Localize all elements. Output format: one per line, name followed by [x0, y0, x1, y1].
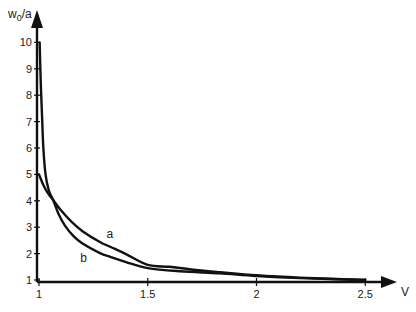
y-tick-label: 6	[26, 142, 32, 154]
curve-label-b: b	[80, 251, 87, 265]
y-tick-label: 9	[26, 63, 32, 75]
y-tick-label: 1	[26, 274, 32, 286]
y-tick-label: 5	[26, 168, 32, 180]
y-tick-label: 8	[26, 89, 32, 101]
y-tick-label: 10	[20, 36, 32, 48]
curve-a	[39, 174, 365, 280]
y-axis-arrow-icon	[31, 10, 43, 28]
axes: 1234567891011.522.5w0/aV	[7, 7, 409, 300]
curves	[39, 42, 365, 280]
x-tick-label: 2.5	[358, 288, 373, 300]
x-axis-label: V	[401, 285, 409, 299]
curve-label-a: a	[106, 227, 113, 241]
x-tick-label: 1	[36, 288, 42, 300]
y-tick-label: 4	[26, 195, 32, 207]
x-tick-label: 2	[253, 288, 259, 300]
x-tick-label: 1.5	[140, 288, 155, 300]
chart: 1234567891011.522.5w0/aV ab	[0, 0, 416, 312]
y-tick-label: 7	[26, 116, 32, 128]
curve-b	[40, 42, 366, 280]
y-tick-label: 3	[26, 221, 32, 233]
y-axis-label: w0/a	[7, 7, 32, 23]
y-tick-label: 2	[26, 248, 32, 260]
x-axis-arrow-icon	[381, 276, 397, 288]
